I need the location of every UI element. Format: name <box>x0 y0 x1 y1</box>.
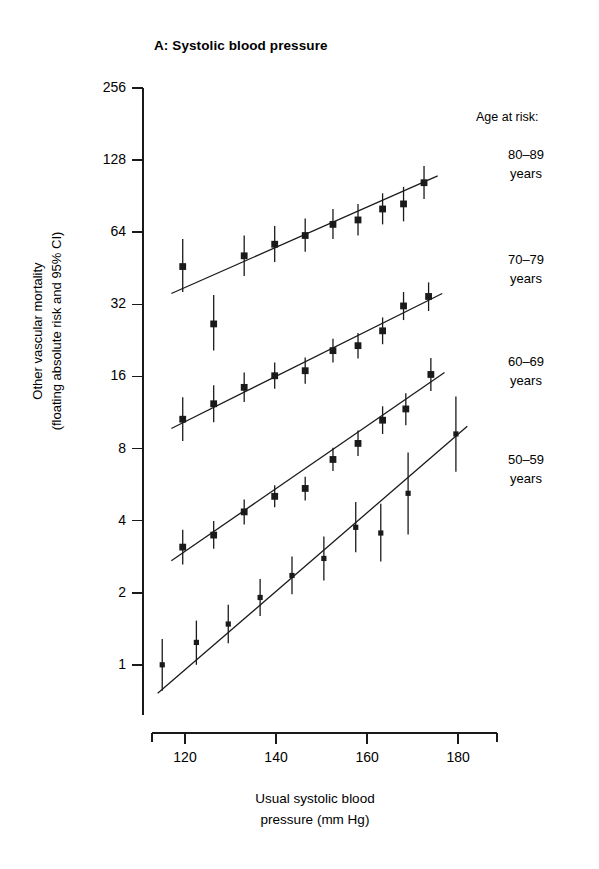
y-tick-label: 4 <box>80 512 126 528</box>
data-point-marker <box>302 485 309 492</box>
data-point-marker <box>400 303 407 310</box>
data-point-marker <box>379 327 386 334</box>
series-70-79 <box>171 282 442 441</box>
series-80-89 <box>171 166 437 351</box>
data-point-marker <box>400 201 407 208</box>
data-point-marker <box>379 417 386 424</box>
data-point-marker <box>194 640 199 645</box>
y-tick-label: 2 <box>80 584 126 600</box>
data-point-marker <box>160 662 165 667</box>
y-tick-marks <box>132 88 143 665</box>
y-tick-label: 64 <box>80 223 126 239</box>
data-point-marker <box>241 252 248 259</box>
plot-canvas <box>0 0 599 869</box>
x-tick-label: 140 <box>246 749 306 765</box>
figure-panel-a: A: Systolic blood pressure Other vascula… <box>0 0 599 869</box>
y-tick-label: 256 <box>80 79 126 95</box>
x-tick-label: 160 <box>337 749 397 765</box>
data-point-marker <box>321 556 326 561</box>
data-point-marker <box>210 400 217 407</box>
trend-line <box>171 294 442 429</box>
y-tick-label: 8 <box>80 440 126 456</box>
x-tick-label: 120 <box>155 749 215 765</box>
series-60-69 <box>171 358 444 565</box>
data-point-marker <box>271 241 278 248</box>
data-point-marker <box>179 544 186 551</box>
data-point-marker <box>210 532 217 539</box>
data-point-marker <box>210 321 217 328</box>
data-point-marker <box>402 406 409 413</box>
data-point-marker <box>427 371 434 378</box>
data-point-marker <box>289 573 294 578</box>
data-point-marker <box>330 456 337 463</box>
data-point-marker <box>271 372 278 379</box>
x-tick-marks <box>185 733 458 744</box>
data-point-marker <box>353 525 358 530</box>
data-point-marker <box>271 493 278 500</box>
data-point-marker <box>330 221 337 228</box>
data-point-marker <box>179 263 186 270</box>
data-point-marker <box>378 530 383 535</box>
data-point-marker <box>302 367 309 374</box>
y-tick-label: 1 <box>80 656 126 672</box>
data-point-marker <box>179 416 186 423</box>
data-point-marker <box>379 206 386 213</box>
data-point-marker <box>425 293 432 300</box>
data-point-marker <box>241 508 248 515</box>
data-point-marker <box>405 491 410 496</box>
data-point-marker <box>355 342 362 349</box>
data-point-marker <box>421 179 428 186</box>
y-tick-label: 128 <box>80 151 126 167</box>
data-point-marker <box>355 217 362 224</box>
x-tick-label: 180 <box>428 749 488 765</box>
data-point-marker <box>330 347 337 354</box>
data-point-marker <box>226 621 231 626</box>
data-point-marker <box>258 595 263 600</box>
y-tick-label: 16 <box>80 367 126 383</box>
data-point-marker <box>355 440 362 447</box>
trend-line <box>158 426 468 693</box>
data-point-marker <box>241 384 248 391</box>
y-tick-label: 32 <box>80 295 126 311</box>
series-50-59 <box>158 396 468 693</box>
data-point-marker <box>453 431 458 436</box>
data-point-marker <box>302 232 309 239</box>
